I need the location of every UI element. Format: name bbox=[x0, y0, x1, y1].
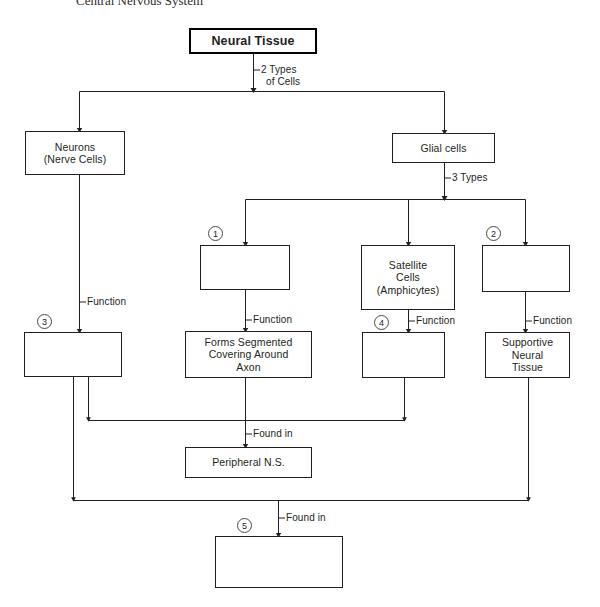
node-blank-2[interactable] bbox=[482, 245, 570, 292]
node-supportive-line2: Neural bbox=[502, 349, 553, 362]
edge-label-found-in-bottom: Found in bbox=[286, 512, 326, 524]
node-satellite-cells[interactable]: Satellite Cells (Amphicytes) bbox=[361, 245, 455, 310]
marker-2: 2 bbox=[486, 226, 501, 241]
marker-5: 5 bbox=[237, 518, 252, 533]
node-myelin-line1: Forms Segmented bbox=[205, 336, 293, 349]
edge-label-function-neurons: Function bbox=[87, 296, 126, 308]
flowchart-canvas: Central Nervous System bbox=[0, 0, 600, 607]
node-supportive-neural-tissue[interactable]: Supportive Neural Tissue bbox=[485, 332, 570, 378]
node-neurons-line1: Neurons bbox=[44, 141, 107, 154]
node-supportive-line1: Supportive bbox=[502, 336, 553, 349]
edge-label-function-1: Function bbox=[253, 314, 292, 326]
node-peripheral-ns[interactable]: Peripheral N.S. bbox=[185, 447, 312, 478]
marker-1: 1 bbox=[208, 226, 223, 241]
node-myelin-line3: Axon bbox=[205, 361, 293, 374]
edge-label-function-satellite: Function bbox=[416, 315, 455, 327]
node-satellite-line2: Cells bbox=[377, 271, 439, 284]
edge-label-function-2: Function bbox=[533, 315, 572, 327]
marker-4: 4 bbox=[374, 315, 389, 330]
node-neural-tissue[interactable]: Neural Tissue bbox=[189, 28, 317, 54]
node-satellite-line3: (Amphicytes) bbox=[377, 284, 439, 297]
node-blank-5[interactable] bbox=[215, 536, 343, 588]
node-blank-4[interactable] bbox=[362, 332, 445, 378]
node-blank-3[interactable] bbox=[24, 332, 122, 377]
marker-3: 3 bbox=[37, 314, 52, 329]
edge-label-three-types: 3 Types bbox=[452, 172, 488, 184]
node-myelin-line2: Covering Around bbox=[205, 348, 293, 361]
node-neurons[interactable]: Neurons (Nerve Cells) bbox=[25, 131, 125, 175]
edge-label-found-in-peripheral: Found in bbox=[253, 428, 293, 440]
node-neurons-line2: (Nerve Cells) bbox=[44, 153, 107, 166]
node-blank-1[interactable] bbox=[200, 245, 290, 290]
edge-label-two-types-line1: 2 Types bbox=[261, 64, 297, 76]
edge-label-two-types-line2: of Cells bbox=[266, 76, 300, 88]
node-glial-cells[interactable]: Glial cells bbox=[392, 133, 495, 163]
node-satellite-line1: Satellite bbox=[377, 259, 439, 272]
node-supportive-line3: Tissue bbox=[502, 361, 553, 374]
node-myelin-function[interactable]: Forms Segmented Covering Around Axon bbox=[185, 331, 312, 378]
